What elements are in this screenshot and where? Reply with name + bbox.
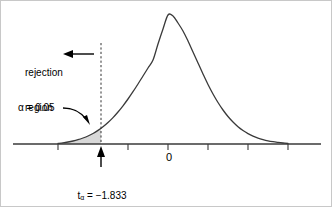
alpha-label: α = 0.05: [18, 102, 55, 114]
statistics-figure: rejection region α = 0.05 0 tα = −1.833 …: [0, 0, 332, 207]
t-distribution-curve: [58, 14, 288, 144]
critical-value-number: = −1.833: [84, 190, 126, 201]
rejection-region-arrow: [63, 50, 94, 58]
critical-value-equation: tα = −1.833: [54, 190, 150, 202]
x-axis-ticks: [58, 144, 288, 150]
alpha-pointer-arrow: [63, 108, 90, 125]
alpha-shaded-region: [58, 128, 101, 144]
rejection-region-line1: rejection: [25, 67, 63, 79]
critical-value-up-arrow: [97, 146, 105, 167]
critical-value-label: tα = −1.833 critical value: [54, 167, 150, 207]
rejection-region-label: rejection region: [25, 44, 63, 136]
zero-tick-label: 0: [163, 151, 175, 164]
